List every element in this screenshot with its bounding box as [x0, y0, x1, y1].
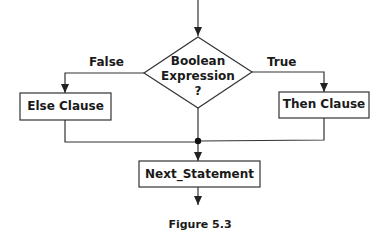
figure-caption: Figure 5.3 [140, 218, 260, 232]
next-statement-label: Next_Statement [139, 167, 260, 181]
then-merge-line [198, 118, 324, 141]
false-label: False [89, 55, 124, 69]
else-clause-label: Else Clause [20, 99, 111, 113]
decision-line-1: Boolean [160, 54, 236, 68]
then-clause-label: Then Clause [279, 97, 369, 111]
decision-line-2: Expression [155, 69, 241, 83]
true-label: True [267, 55, 296, 69]
false-branch-line [65, 73, 144, 93]
flowchart-graphics [0, 0, 387, 236]
true-branch-line [252, 72, 324, 92]
else-merge-line [65, 120, 198, 142]
junction-dot [195, 138, 201, 144]
decision-line-3: ? [188, 84, 208, 98]
